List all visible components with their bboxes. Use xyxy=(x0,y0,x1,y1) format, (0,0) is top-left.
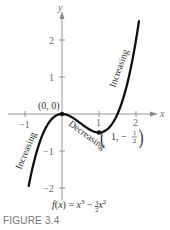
increasing-left-label: Increasing xyxy=(14,130,39,171)
x-tick-label: 2 xyxy=(133,117,138,128)
function-graph: y x −1 1 2 2 1 −1 −2 (0, 0) ( 1, − 1 2 )… xyxy=(0,0,170,230)
point-origin-marker xyxy=(60,112,64,116)
y-tick-label: 2 xyxy=(49,35,54,46)
svg-text:): ) xyxy=(139,124,144,149)
x-axis-arrow-icon xyxy=(150,112,158,117)
y-tick-label: −1 xyxy=(43,146,54,157)
figure-caption: FIGURE 3.4 xyxy=(3,215,59,226)
x-tick-label: −1 xyxy=(19,119,30,130)
x-axis-label: x xyxy=(159,108,165,119)
y-tick-label: −2 xyxy=(43,183,54,194)
formula-equals: ) = xyxy=(63,199,77,210)
formula-minus: − xyxy=(85,199,96,210)
point-origin-label: (0, 0) xyxy=(38,100,60,112)
y-axis-label: y xyxy=(57,2,63,13)
y-tick-label: 1 xyxy=(49,72,54,83)
svg-text:1, −: 1, − xyxy=(111,131,127,142)
point-minimum-label: ( 1, − 1 2 ) xyxy=(100,124,144,149)
svg-text:1: 1 xyxy=(133,129,136,136)
svg-text:2: 2 xyxy=(133,137,136,144)
function-formula: f(x) = x3 − 32x2 xyxy=(52,198,106,213)
